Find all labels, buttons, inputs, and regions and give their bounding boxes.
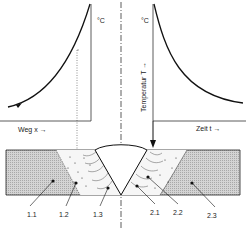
right-unit-label: °C	[141, 17, 149, 24]
right-y-axis-label: Temperatur T →	[140, 62, 148, 112]
left-chart: °C Weg x →	[0, 4, 105, 165]
arrow-down-icon	[150, 140, 156, 148]
zone-label-2-1: 2.1	[150, 209, 160, 216]
cooling-curve	[154, 4, 243, 103]
right-chart: °C Temperatur T → Zeit t →	[140, 4, 246, 148]
weld-cross-section	[6, 145, 240, 207]
weld-temperature-diagram: °C Weg x → °C Temperatur T → Zeit t →	[0, 0, 246, 230]
zone-label-2-3: 2.3	[207, 212, 217, 219]
zone-label-1-3: 1.3	[93, 211, 103, 218]
zone-label-1-1: 1.1	[27, 211, 37, 218]
left-x-axis-label: Weg x →	[18, 126, 47, 134]
zone-label-2-2: 2.2	[173, 209, 183, 216]
left-unit-label: °C	[97, 17, 105, 24]
zone-label-1-2: 1.2	[59, 211, 69, 218]
heating-curve	[8, 4, 90, 107]
right-x-axis-label: Zeit t →	[196, 125, 221, 132]
